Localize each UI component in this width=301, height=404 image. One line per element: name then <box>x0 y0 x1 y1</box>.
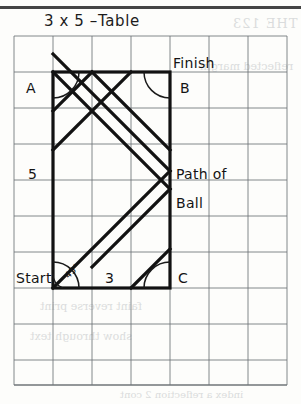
arc-bottom-right <box>144 262 170 288</box>
label-corner-c: C <box>178 270 188 286</box>
label-path-of: Path of <box>176 166 227 182</box>
label-finish: Finish <box>173 55 215 71</box>
scanned-page: THE 123 reflected margin faint reverse p… <box>0 0 301 404</box>
arc-top-right <box>144 72 170 98</box>
label-ball: Ball <box>176 195 203 211</box>
path-segment <box>131 249 170 288</box>
ball-path <box>53 54 170 288</box>
label-corner-a: A <box>26 80 36 96</box>
label-side-3: 3 <box>105 270 114 286</box>
label-side-5: 5 <box>28 166 37 182</box>
billiard-diagram-svg <box>0 0 301 404</box>
label-start: Start <box>16 270 52 286</box>
label-corner-b: B <box>180 80 190 96</box>
